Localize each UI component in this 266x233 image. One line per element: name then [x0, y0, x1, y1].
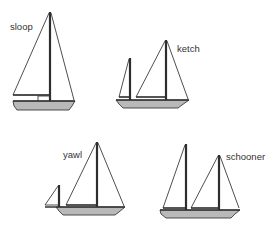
label-ketch: ketch: [177, 44, 200, 54]
yawl-mizzen-sail: [45, 186, 58, 205]
schooner-mainsail: [191, 156, 219, 208]
ketch-hull: [116, 100, 189, 108]
schooner-jib: [220, 156, 239, 208]
ketch-mizzen-sail: [119, 59, 130, 97]
yawl-hull: [56, 207, 125, 215]
schooner-foresail: [163, 145, 186, 208]
label-sloop: sloop: [10, 22, 33, 32]
ketch-mainsail: [136, 41, 166, 97]
yawl-jib: [98, 143, 124, 206]
yawl-boat: [45, 142, 125, 215]
sloop-hull: [13, 101, 75, 110]
sloop-jib: [51, 13, 74, 100]
label-yawl: yawl: [63, 150, 82, 160]
schooner-hull: [160, 210, 240, 218]
label-schooner: schooner: [226, 152, 265, 162]
sailboat-diagram: [0, 0, 266, 233]
